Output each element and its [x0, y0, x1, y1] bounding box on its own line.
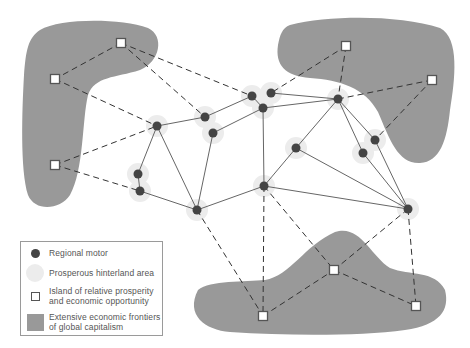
legend-label: Regional motor — [49, 248, 108, 258]
island-node — [412, 302, 421, 311]
island-square-icon — [31, 292, 40, 301]
legend-label: Island of relative prosperity and econom… — [49, 286, 153, 306]
regional-motor-node — [209, 129, 218, 138]
island-node — [259, 312, 268, 321]
regional-motor-node — [153, 122, 162, 131]
legend-item-regional-motor: Regional motor — [21, 248, 108, 258]
regional-motor-node — [404, 205, 413, 214]
legend-label: Extensive economic frontiers of global c… — [49, 312, 160, 332]
island-node — [51, 75, 60, 84]
legend-item-island: Island of relative prosperity and econom… — [21, 286, 153, 306]
solid-link — [296, 99, 338, 148]
regional-motor-node — [259, 104, 268, 113]
legend-label: Prosperous hinterland area — [49, 268, 154, 278]
frontier-bottom — [194, 231, 446, 335]
island-node — [51, 161, 60, 170]
hinterland-icon — [26, 264, 44, 282]
regional-motor-node — [201, 113, 210, 122]
solid-link — [197, 186, 264, 210]
solid-link — [263, 108, 264, 186]
island-node — [117, 39, 126, 48]
regional-motor-node — [267, 89, 276, 98]
regional-motor-node — [371, 136, 380, 145]
solid-link — [205, 96, 252, 117]
solid-link — [338, 99, 363, 153]
regional-motor-icon — [31, 249, 40, 258]
regional-motor-node — [248, 92, 257, 101]
regional-motor-node — [292, 144, 301, 153]
solid-link — [338, 99, 375, 140]
solid-link — [197, 133, 213, 210]
dashed-link — [264, 186, 334, 270]
regional-motor-node — [334, 95, 343, 104]
island-node — [330, 266, 339, 275]
regional-motor-node — [134, 170, 143, 179]
island-node — [428, 76, 437, 85]
legend: Regional motor Prosperous hinterland are… — [20, 241, 163, 336]
solid-link — [213, 108, 263, 133]
regional-motor-node — [136, 187, 145, 196]
frontier-swatch-icon — [27, 314, 44, 331]
regional-motor-node — [260, 182, 269, 191]
legend-item-prosperous-hinterland: Prosperous hinterland area — [21, 264, 154, 282]
regional-motor-node — [193, 206, 202, 215]
solid-link — [138, 126, 157, 174]
legend-item-frontier: Extensive economic frontiers of global c… — [21, 312, 160, 332]
solid-link — [264, 148, 296, 186]
solid-link — [140, 191, 197, 210]
island-node — [342, 42, 351, 51]
solid-link — [157, 126, 197, 210]
regional-motor-node — [359, 149, 368, 158]
